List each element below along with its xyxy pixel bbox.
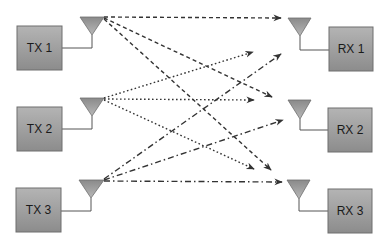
rx-label: RX 3 bbox=[337, 204, 364, 218]
rx-label: RX 2 bbox=[337, 123, 364, 137]
tx-label: TX 3 bbox=[26, 203, 52, 217]
tx-label: TX 1 bbox=[27, 41, 53, 55]
tx-label: TX 2 bbox=[27, 122, 53, 136]
mimo-diagram: TX 1TX 2TX 3 RX 1RX 2RX 3 bbox=[0, 0, 387, 246]
rx-label: RX 1 bbox=[338, 42, 365, 56]
